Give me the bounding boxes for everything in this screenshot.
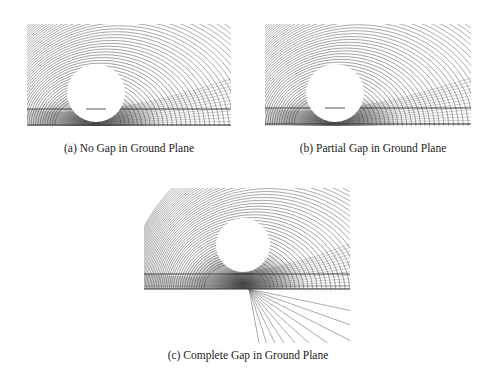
caption-c: (c) Complete Gap in Ground Plane — [128, 349, 368, 361]
conductor-circle — [216, 218, 270, 272]
caption-b: (b) Partial Gap in Ground Plane — [253, 142, 493, 154]
conductor-circle — [306, 64, 364, 122]
conductor-circle — [67, 64, 125, 122]
field-lines-svg — [27, 24, 231, 126]
field-lines-svg — [144, 188, 350, 343]
caption-a: (a) No Gap in Ground Plane — [9, 142, 249, 154]
panel-c-field-diagram — [144, 188, 350, 343]
panel-b-field-diagram — [265, 24, 471, 126]
panel-a-field-diagram — [27, 24, 231, 126]
field-lines-svg — [265, 24, 471, 126]
